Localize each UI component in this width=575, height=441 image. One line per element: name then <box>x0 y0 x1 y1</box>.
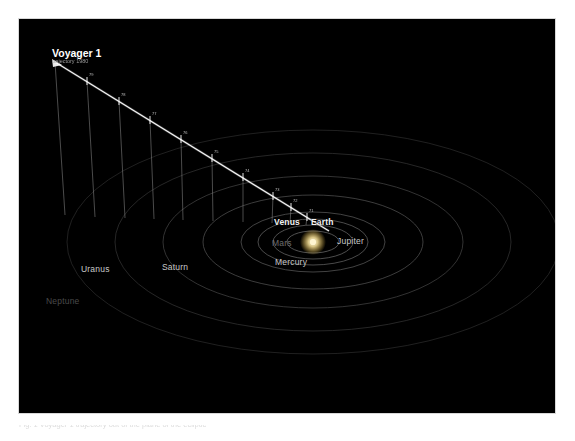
drop-line <box>150 120 154 219</box>
year-tick-label: 76 <box>183 130 187 135</box>
caption-strip: Fig. 1 Voyager 1 trajectory out of the p… <box>19 425 555 441</box>
year-tick-label: 75 <box>214 149 218 154</box>
drop-line <box>55 62 65 215</box>
drop-line <box>181 139 183 220</box>
sun-core <box>310 239 316 245</box>
drop-line <box>119 101 125 218</box>
drop-line <box>272 196 273 223</box>
sun-marker <box>300 229 326 255</box>
year-tick-label: 74 <box>245 168 249 173</box>
diagram-panel: Voyager 1 trajectory 1980 79 78 77 76 75… <box>19 19 555 413</box>
year-tick-label: 71 <box>309 208 313 213</box>
drop-line <box>212 158 213 221</box>
year-tick-label: 78 <box>121 92 125 97</box>
year-tick-label: 77 <box>152 111 156 116</box>
year-tick-label: 79 <box>89 72 93 77</box>
trajectory-line <box>55 62 329 231</box>
caption-text: Fig. 1 Voyager 1 trajectory out of the p… <box>19 425 555 430</box>
figure-root: Voyager 1 trajectory 1980 79 78 77 76 75… <box>0 0 575 441</box>
year-tick-label: 72 <box>293 198 297 203</box>
voyager-trajectory <box>55 62 329 231</box>
probe-subtitle: trajectory 1980 <box>52 58 88 63</box>
year-tick-label: 73 <box>275 187 279 192</box>
diagram-svg <box>19 19 555 413</box>
